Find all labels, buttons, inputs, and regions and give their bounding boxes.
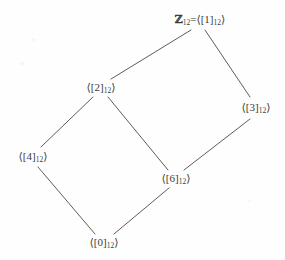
lattice-node-gen4: ⟨[4]12⟩ [17, 150, 50, 165]
scan-artifact [248, 200, 251, 202]
lattice-edge-gen2-gen6 [108, 97, 168, 170]
lattice-edge-gen6-gen0 [114, 188, 169, 234]
edge-layer [0, 0, 285, 260]
lattice-node-gen3: ⟨[3]12⟩ [240, 101, 273, 116]
lattice-edge-gen3-gen6 [184, 119, 250, 170]
scan-artifact [20, 62, 24, 65]
lattice-node-gen0: ⟨[0]12⟩ [88, 236, 121, 251]
lattice-node-gen6: ⟨[6]12⟩ [160, 172, 193, 187]
lattice-edge-top-gen3 [205, 30, 250, 97]
diagram-canvas: ℤ12=⟨[1]12⟩⟨[2]12⟩⟨[3]12⟩⟨[4]12⟩⟨[6]12⟩⟨… [0, 0, 285, 260]
scan-artifact [32, 38, 35, 41]
lattice-node-top: ℤ12=⟨[1]12⟩ [173, 13, 228, 28]
lattice-edge-top-gen2 [111, 30, 191, 79]
lattice-node-gen2: ⟨[2]12⟩ [85, 81, 118, 96]
lattice-edge-gen4-gen0 [38, 167, 95, 234]
lattice-edge-gen2-gen4 [41, 97, 93, 147]
